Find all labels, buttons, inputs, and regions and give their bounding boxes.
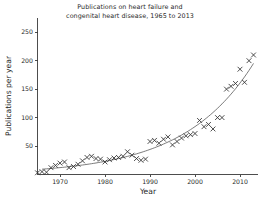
trend-curve bbox=[42, 63, 254, 169]
data-point bbox=[143, 157, 148, 162]
data-point bbox=[152, 138, 157, 143]
chart-container: Publications on heart failure and congen… bbox=[0, 0, 260, 199]
data-point bbox=[170, 143, 175, 148]
data-point bbox=[134, 156, 139, 161]
data-point bbox=[215, 115, 220, 120]
data-point bbox=[98, 157, 103, 162]
y-tick-label: 100 bbox=[21, 114, 33, 121]
y-tick-label: 200 bbox=[21, 57, 33, 64]
data-point bbox=[197, 118, 202, 123]
data-point bbox=[161, 137, 166, 142]
data-point bbox=[94, 156, 99, 161]
x-tick-label: 2010 bbox=[232, 178, 248, 185]
data-point bbox=[107, 157, 112, 162]
data-point bbox=[242, 80, 247, 85]
plot-area: 50100150200250 19701980199020002010 Year… bbox=[0, 0, 260, 199]
data-point bbox=[125, 149, 130, 154]
y-tick-label: 150 bbox=[21, 85, 33, 92]
data-point bbox=[139, 158, 144, 163]
data-point bbox=[211, 127, 216, 132]
data-point bbox=[224, 87, 229, 92]
data-point bbox=[62, 160, 67, 165]
data-point bbox=[247, 58, 252, 63]
data-point bbox=[202, 124, 207, 129]
data-point bbox=[157, 141, 162, 146]
x-tick-label: 1990 bbox=[142, 178, 158, 185]
x-tick-label: 1980 bbox=[97, 178, 113, 185]
data-point bbox=[238, 67, 243, 72]
data-point bbox=[80, 158, 85, 163]
x-tick-label: 2000 bbox=[187, 178, 203, 185]
data-point bbox=[184, 133, 189, 138]
data-point bbox=[229, 84, 234, 89]
data-point bbox=[40, 169, 45, 174]
y-axis-label: Publications per year bbox=[4, 55, 13, 136]
data-point bbox=[116, 155, 121, 160]
y-tick-group: 50100150200250 bbox=[21, 28, 37, 149]
data-point bbox=[179, 136, 184, 141]
data-point bbox=[44, 170, 49, 175]
data-point bbox=[166, 135, 171, 140]
data-point-group bbox=[35, 53, 256, 176]
data-point bbox=[148, 139, 153, 144]
data-point bbox=[89, 154, 94, 159]
data-point bbox=[193, 131, 198, 136]
x-tick-group: 19701980199020002010 bbox=[52, 175, 248, 186]
data-point bbox=[49, 165, 54, 170]
y-tick-label: 50 bbox=[25, 142, 33, 149]
data-point bbox=[175, 139, 180, 144]
data-point bbox=[188, 132, 193, 137]
data-point bbox=[130, 153, 135, 158]
data-point bbox=[233, 81, 238, 86]
x-axis-label: Year bbox=[139, 187, 157, 196]
data-point bbox=[67, 165, 72, 170]
x-tick-label: 1970 bbox=[52, 178, 68, 185]
data-point bbox=[53, 163, 58, 168]
data-point bbox=[251, 53, 256, 58]
data-point bbox=[85, 155, 90, 160]
data-point bbox=[206, 122, 211, 127]
data-point bbox=[220, 115, 225, 120]
y-tick-label: 250 bbox=[21, 28, 33, 35]
data-point bbox=[121, 154, 126, 159]
axes-group bbox=[38, 18, 259, 175]
data-point bbox=[58, 161, 63, 166]
